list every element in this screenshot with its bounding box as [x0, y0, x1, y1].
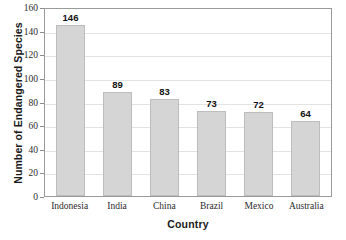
bar-chart: Number of Endangered Species 02040608010…	[0, 0, 346, 240]
bar-value-label: 89	[94, 80, 141, 90]
x-axis-tick-label: India	[93, 199, 140, 215]
y-axis-tick-label: 100	[14, 74, 38, 83]
y-axis-tick-labels: 020406080100120140160	[14, 0, 38, 240]
x-axis-tick-label: Brazil	[188, 199, 235, 215]
y-axis-tick-label: 20	[14, 169, 38, 178]
bar-series: 1468983737264	[45, 9, 331, 196]
y-axis-tick-label: 120	[14, 51, 38, 60]
bar	[291, 121, 319, 196]
bar	[103, 92, 131, 196]
x-axis-tick-label: Indonesia	[46, 199, 93, 215]
y-axis-tick-mark	[40, 197, 44, 198]
bar	[150, 99, 178, 196]
plot-area: 1468983737264	[44, 8, 332, 197]
x-axis-tick-labels: IndonesiaIndiaChinaBrazilMexicoAustralia	[44, 199, 332, 215]
bar-slot: 146	[47, 9, 94, 196]
x-axis-tick-label: China	[141, 199, 188, 215]
bar-slot: 89	[94, 9, 141, 196]
bar	[197, 111, 225, 196]
y-axis-tick-label: 40	[14, 145, 38, 154]
bar-slot: 83	[141, 9, 188, 196]
x-axis-tick-label: Mexico	[235, 199, 282, 215]
x-axis-title: Country	[44, 218, 332, 230]
y-axis-tick-label: 80	[14, 98, 38, 107]
bar-slot: 72	[235, 9, 282, 196]
bar-value-label: 73	[188, 99, 235, 109]
bar-slot: 64	[282, 9, 329, 196]
bar	[56, 25, 84, 196]
x-axis-tick-label: Australia	[283, 199, 330, 215]
bar-value-label: 72	[235, 100, 282, 110]
bar-value-label: 64	[282, 109, 329, 119]
bar-slot: 73	[188, 9, 235, 196]
bar-value-label: 146	[47, 13, 94, 23]
bar-value-label: 83	[141, 87, 188, 97]
y-axis-tick-label: 160	[14, 4, 38, 13]
y-axis-tick-label: 60	[14, 122, 38, 131]
y-axis-tick-label: 140	[14, 27, 38, 36]
bar	[244, 112, 272, 196]
y-axis-tick-label: 0	[14, 193, 38, 202]
